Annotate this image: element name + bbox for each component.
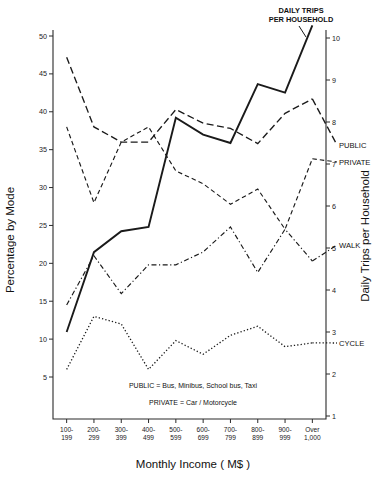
- series-label-walk: WALK: [339, 241, 360, 250]
- annotation-private: PRIVATE = Car / Motorcycle: [149, 399, 237, 407]
- right-axis-tick-label: 9: [332, 76, 336, 85]
- left-axis-tick-label: 35: [39, 145, 47, 154]
- right-axis-tick-label: 6: [332, 202, 336, 211]
- chart-title: DAILY TRIPS PER HOUSEHOLD: [269, 6, 334, 24]
- plot-frame: [53, 30, 326, 419]
- series-leader-walk: [312, 245, 337, 261]
- x-axis-tick-label: Over: [305, 426, 320, 433]
- series-line-daily-trips-per-household: [67, 25, 313, 332]
- right-axis-tick-label: 1: [332, 412, 336, 421]
- multi-series-line-chart: 5101520253035404550 12345678910 100-1992…: [0, 0, 383, 480]
- x-axis-tick-label: 800-: [251, 426, 264, 433]
- left-axis-tick-label: 30: [39, 183, 47, 192]
- series-label-public: PUBLIC: [339, 141, 367, 150]
- x-axis: 100-199200-299300-399400-499500-599600-6…: [60, 419, 321, 441]
- right-axis-tick-label: 3: [332, 328, 336, 337]
- x-axis-tick-label: 200-: [87, 426, 100, 433]
- series-label-private: PRIVATE: [339, 158, 370, 167]
- y-axis-title: Percentage by Mode: [4, 187, 16, 293]
- x-axis-tick-label: 899: [252, 434, 263, 441]
- left-axis-tick-label: 45: [39, 69, 47, 78]
- x-axis-tick-label: 400-: [142, 426, 155, 433]
- right-axis-tick-label: 10: [332, 34, 340, 43]
- series-label-cycle: CYCLE: [339, 339, 364, 348]
- x-axis-tick-label: 1,000: [304, 434, 321, 441]
- x-axis-tick-label: 299: [88, 434, 99, 441]
- x-axis-tick-label: 999: [280, 434, 291, 441]
- x-axis-tick-label: 300-: [115, 426, 128, 433]
- x-axis-tick-label: 399: [116, 434, 127, 441]
- series-group: [67, 25, 313, 369]
- left-axis-tick-label: 50: [39, 32, 47, 41]
- x-axis-tick-label: 600-: [197, 426, 210, 433]
- chart-figure: 5101520253035404550 12345678910 100-1992…: [0, 0, 383, 480]
- left-axis-tick-label: 5: [43, 373, 47, 382]
- x-axis-tick-label: 700-: [224, 426, 237, 433]
- y-axis-title-right: Daily Trips per Household: [359, 170, 371, 302]
- series-line-private: [67, 127, 313, 229]
- x-axis-title: Monthly Income ( M$ ): [136, 458, 251, 470]
- left-axis-tick-label: 20: [39, 259, 47, 268]
- x-axis-tick-label: 699: [198, 434, 209, 441]
- series-line-public: [67, 57, 313, 143]
- series-line-walk: [67, 227, 313, 305]
- right-axis-tick-label: 7: [332, 160, 336, 169]
- plot-annotations: PUBLIC = Bus, Minibus, School bus, Taxi …: [129, 382, 258, 407]
- right-axis-tick-label: 4: [332, 286, 336, 295]
- x-axis-tick-label: 799: [225, 434, 236, 441]
- chart-title-line2: PER HOUSEHOLD: [269, 15, 334, 24]
- series-line-cycle: [67, 316, 313, 369]
- right-axis: 12345678910: [326, 34, 340, 421]
- chart-title-line1: DAILY TRIPS: [278, 6, 323, 15]
- x-axis-tick-label: 900-: [278, 426, 291, 433]
- x-axis-tick-label: 199: [61, 434, 72, 441]
- chart-title-leader: [299, 26, 306, 37]
- left-axis: 5101520253035404550: [39, 32, 53, 382]
- x-axis-tick-label: 500-: [169, 426, 182, 433]
- left-axis-tick-label: 10: [39, 335, 47, 344]
- x-axis-tick-label: 499: [143, 434, 154, 441]
- right-axis-tick-label: 8: [332, 118, 336, 127]
- right-axis-tick-label: 2: [332, 370, 336, 379]
- left-axis-tick-label: 40: [39, 107, 47, 116]
- left-axis-tick-label: 15: [39, 297, 47, 306]
- x-axis-tick-label: 599: [170, 434, 181, 441]
- left-axis-tick-label: 25: [39, 221, 47, 230]
- annotation-public: PUBLIC = Bus, Minibus, School bus, Taxi: [129, 382, 258, 389]
- x-axis-tick-label: 100-: [60, 426, 73, 433]
